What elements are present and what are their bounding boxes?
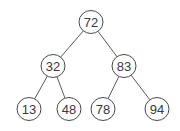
tree-node-13: 13 [17, 98, 41, 121]
tree-node-72: 72 [79, 11, 103, 34]
tree-edge [98, 31, 117, 57]
tree-node-32: 32 [41, 55, 65, 78]
node-label: 94 [150, 102, 164, 117]
tree-edge [57, 77, 65, 98]
node-label: 48 [62, 102, 76, 117]
tree-edge [131, 75, 150, 100]
tree-nodes: 72328313487894 [17, 11, 169, 121]
tree-node-83: 83 [112, 55, 136, 78]
binary-tree-diagram: 72328313487894 [0, 0, 180, 131]
tree-node-78: 78 [91, 98, 115, 121]
node-label: 13 [22, 102, 36, 117]
node-label: 83 [117, 59, 131, 74]
node-label: 72 [84, 15, 98, 30]
tree-node-48: 48 [57, 98, 81, 121]
node-label: 32 [46, 59, 60, 74]
tree-edge [35, 76, 48, 99]
tree-edge [61, 31, 84, 58]
node-label: 78 [96, 102, 110, 117]
tree-node-94: 94 [145, 98, 169, 121]
tree-edge [108, 76, 119, 98]
